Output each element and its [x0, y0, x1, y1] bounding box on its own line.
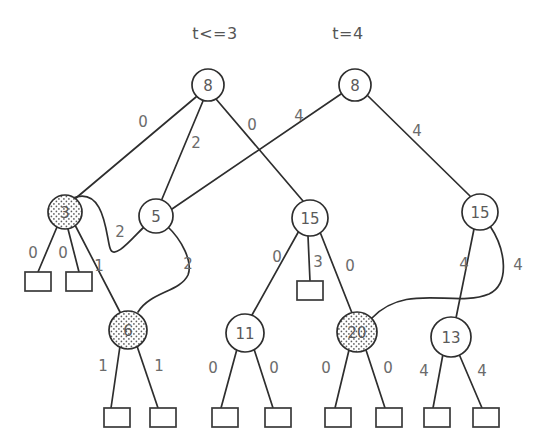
leaf-node [25, 272, 51, 291]
leaf-node [376, 408, 402, 427]
edge-label: 4 [459, 255, 469, 273]
edge-label: 4 [412, 122, 422, 140]
tree-edge [366, 350, 385, 408]
tree-edge [137, 346, 158, 408]
nodes-layer: 883515156112013 [48, 69, 498, 357]
edge-label: 3 [313, 253, 323, 271]
edge-label: 1 [94, 257, 104, 275]
tree-edge [111, 346, 120, 408]
edge-label: 0 [345, 257, 355, 275]
node-value-label: 8 [203, 77, 213, 95]
edge-label: 4 [513, 256, 523, 274]
tree-canvas: 883515156112013 02044001220304411000044 … [0, 0, 554, 440]
tree-edge [221, 349, 237, 408]
edge-label: 2 [191, 134, 201, 152]
edge-label: 0 [247, 116, 257, 134]
leaves-layer [25, 272, 499, 427]
group-labels-layer: t<=3t=4 [192, 24, 363, 43]
leaf-node [473, 408, 499, 427]
leaf-node [66, 272, 92, 291]
edge-label: 4 [419, 362, 429, 380]
leaf-node [212, 408, 238, 427]
group-label-group-right: t=4 [332, 24, 363, 43]
tree-edge [308, 236, 310, 281]
edge-label: 0 [321, 359, 331, 377]
leaf-node [104, 408, 130, 427]
group-label-group-left: t<=3 [192, 24, 237, 43]
node-value-label: 5 [151, 208, 161, 226]
leaf-node [325, 408, 351, 427]
leaf-node [150, 408, 176, 427]
node-value-label: 13 [441, 329, 460, 347]
edge-label: 0 [272, 248, 282, 266]
edge-label: 0 [138, 113, 148, 131]
edge-label: 1 [98, 357, 108, 375]
node-value-label: 3 [60, 204, 70, 222]
edge-label: 1 [154, 357, 164, 375]
leaf-node [424, 408, 450, 427]
tree-edge [138, 226, 189, 312]
edge-label: 0 [208, 359, 218, 377]
leaf-node [265, 408, 291, 427]
node-value-label: 8 [350, 77, 360, 95]
edge-label: 0 [383, 359, 393, 377]
node-value-label: 6 [123, 322, 133, 340]
edge-label: 2 [115, 223, 125, 241]
edge-label: 0 [269, 359, 279, 377]
edge-label: 0 [28, 244, 38, 262]
node-value-label: 11 [235, 325, 254, 343]
decision-tree-diagram: 883515156112013 02044001220304411000044 … [0, 0, 554, 440]
node-value-label: 20 [347, 324, 366, 342]
tree-edge [76, 97, 196, 198]
edge-label: 2 [183, 255, 193, 273]
tree-edge [433, 354, 443, 408]
node-value-label: 15 [470, 204, 489, 222]
tree-edge [456, 229, 474, 318]
edge-label: 0 [58, 244, 68, 262]
tree-edge [368, 96, 470, 196]
tree-edge [335, 350, 349, 408]
tree-edge [68, 229, 79, 272]
tree-edge [38, 227, 57, 272]
node-value-label: 15 [300, 210, 319, 228]
tree-edge [372, 226, 503, 318]
edge-label: 4 [294, 107, 304, 125]
leaf-node [297, 281, 323, 300]
tree-edge [254, 349, 273, 408]
tree-edge [252, 229, 300, 315]
edge-label: 4 [477, 362, 487, 380]
